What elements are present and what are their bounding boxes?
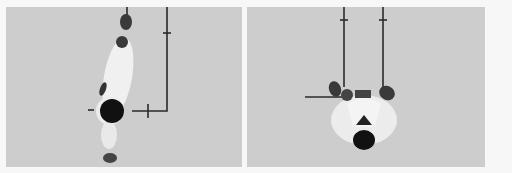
photo-panel-right bbox=[247, 7, 485, 167]
left-photo-illustration bbox=[6, 7, 242, 167]
photo-panel-left bbox=[6, 7, 242, 167]
right-photo-illustration bbox=[247, 7, 485, 167]
